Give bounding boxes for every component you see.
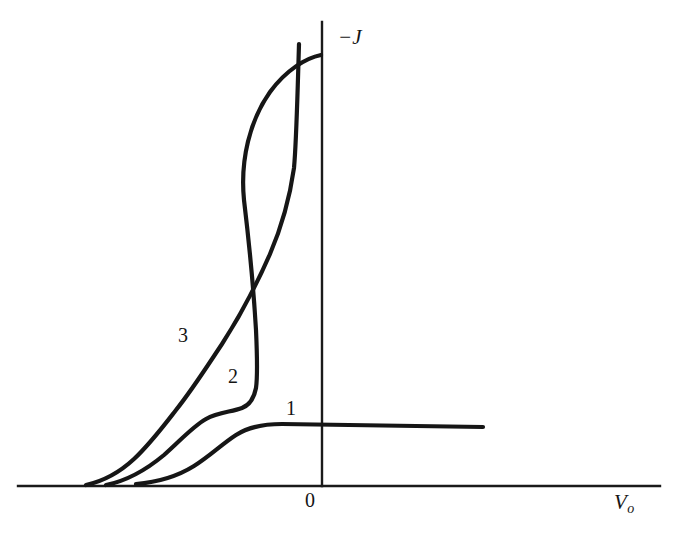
y-axis-label: −J: [338, 27, 362, 48]
curve-3-path: [86, 44, 299, 485]
curve-label-3: 3: [178, 325, 188, 345]
x-axis-label-base: V: [614, 490, 627, 514]
x-axis-label-subscript: o: [627, 501, 634, 516]
curve-label-1: 1: [286, 398, 296, 418]
origin-label: 0: [305, 490, 315, 510]
x-axis-label: Vo: [614, 492, 634, 516]
curve-label-2: 2: [228, 366, 238, 386]
plot-canvas: [0, 0, 682, 536]
curve-2-path: [106, 55, 321, 485]
figure-container: −J Vo 0 1 2 3: [0, 0, 682, 536]
